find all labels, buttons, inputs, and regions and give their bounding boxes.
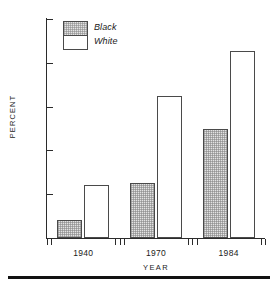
x-axis-tick [51, 239, 52, 245]
bar-1970-white [157, 96, 182, 238]
x-axis-tick [120, 239, 121, 245]
legend-swatch-box [63, 21, 88, 50]
x-axis-tick [115, 239, 116, 245]
bar-1984-black [203, 129, 228, 238]
bar-1984-white [230, 51, 255, 238]
bottom-horizontal-rule [8, 276, 270, 279]
x-axis-tick [192, 239, 193, 245]
x-axis-tick [261, 239, 262, 245]
legend-label-black: Black [94, 23, 117, 32]
x-axis-tick-label: 1970 [126, 249, 186, 258]
legend-label-white: White [94, 37, 118, 46]
x-axis-line [46, 238, 265, 239]
bar-1940-black [57, 220, 82, 238]
plot-area [47, 19, 265, 238]
legend-swatch-white [64, 36, 87, 50]
bar-1970-black [130, 183, 155, 238]
x-axis-title: YEAR [47, 263, 265, 272]
bar-1940-white [84, 185, 109, 238]
x-axis-tick-label: 1940 [53, 249, 113, 258]
x-axis-tick-label: 1984 [199, 249, 259, 258]
x-axis-tick [265, 239, 266, 245]
legend-swatch-black [64, 22, 87, 36]
x-axis-tick [47, 239, 48, 245]
x-axis-tick [124, 239, 125, 245]
y-axis-title: PERCENT [8, 87, 17, 147]
x-axis-tick [188, 239, 189, 245]
x-axis-tick [197, 239, 198, 245]
bar-chart-figure: 0510152025 194019701984 PERCENT YEAR Bla… [0, 0, 278, 284]
